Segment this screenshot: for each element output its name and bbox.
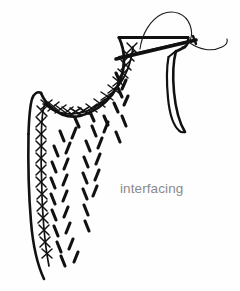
interfacing-diagram: interfacing — [0, 0, 240, 291]
interfacing-label: interfacing — [120, 181, 183, 196]
diagram-canvas: interfacing — [0, 0, 240, 291]
